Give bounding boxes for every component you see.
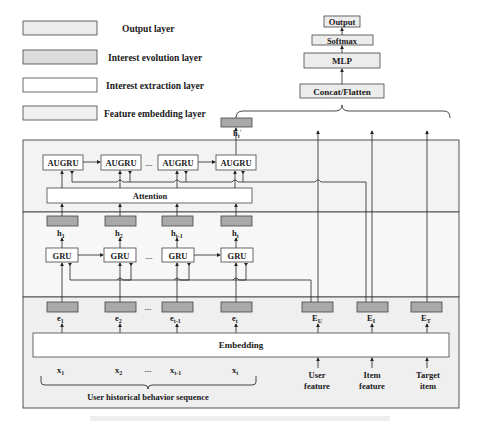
hidden-box-3 <box>162 216 193 226</box>
hidden-box-4 <box>221 216 252 226</box>
input-ellipsis: .... <box>145 366 152 374</box>
embedding-box-e1 <box>47 302 78 312</box>
embedding-box-eu <box>302 302 333 312</box>
caption-placeholder <box>90 416 390 421</box>
legend-swatch-extraction <box>23 78 97 92</box>
target-item-label-2: item <box>420 381 436 391</box>
legend-swatch-evolution <box>23 50 97 64</box>
item-feature-label-2: feature <box>359 381 385 391</box>
legend-label-evolution: Interest evolution layer <box>108 53 203 63</box>
output-stack: Output Softmax MLP Concat/Flatten <box>236 16 450 118</box>
item-feature-label-1: Item <box>364 370 381 380</box>
concat-brace <box>236 105 450 118</box>
legend: Output layer Interest evolution layer In… <box>23 21 206 120</box>
augru-label-1: AUGRU <box>47 158 78 168</box>
sequence-label: User historical behavior sequence <box>87 392 209 402</box>
attention-label: Attention <box>133 191 168 201</box>
augru-label-3: AUGRU <box>162 158 193 168</box>
final-hidden-box <box>221 118 252 127</box>
augru-label-2: AUGRU <box>105 158 136 168</box>
din-architecture-diagram: Output layer Interest evolution layer In… <box>0 0 479 429</box>
legend-label-extraction: Interest extraction layer <box>106 81 205 91</box>
embedding-label: Embedding <box>219 340 264 350</box>
legend-swatch-output <box>23 21 97 35</box>
mlp-label: MLP <box>332 56 352 66</box>
legend-label-embedding: Feature embedding layer <box>104 109 206 119</box>
hidden-box-2 <box>105 216 136 226</box>
gru-label-4: GRU <box>228 251 247 261</box>
gru-ellipsis: .... <box>146 253 153 261</box>
gru-label-2: GRU <box>111 251 130 261</box>
concat-flatten-label: Concat/Flatten <box>313 87 371 97</box>
user-feature-label-2: feature <box>304 381 330 391</box>
legend-swatch-embedding <box>23 106 97 120</box>
embedding-box-e2 <box>105 302 136 312</box>
embedding-box-et <box>221 302 252 312</box>
embedding-ellipsis: .... <box>145 304 152 312</box>
output-label: Output <box>329 17 356 27</box>
embedding-box-ei <box>357 302 388 312</box>
gru-label-3: GRU <box>169 251 188 261</box>
softmax-label: Softmax <box>327 36 358 46</box>
user-feature-label-1: User <box>309 370 326 380</box>
embedding-box-et-1 <box>162 302 193 312</box>
hidden-box-1 <box>47 216 78 226</box>
legend-label-output: Output layer <box>122 24 175 34</box>
augru-label-4: AUGRU <box>220 158 251 168</box>
gru-label-1: GRU <box>53 251 72 261</box>
augru-ellipsis: .... <box>146 160 153 168</box>
final-hidden-label: ht' <box>233 128 242 139</box>
embedding-box-et-target <box>411 302 442 312</box>
target-item-label-1: Target <box>416 370 440 380</box>
